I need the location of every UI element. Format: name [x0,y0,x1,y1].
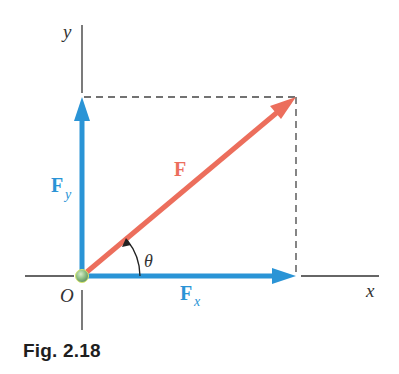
fy-arrowhead [74,97,90,121]
y-axis-label: y [61,21,72,42]
f-label: F [174,158,186,180]
theta-label: θ [144,251,153,271]
vector-fy [74,97,90,276]
angle-theta-arc [122,238,140,276]
force-components-diagram: y x O θ F F y F x [0,0,399,374]
origin-label: O [60,285,74,306]
fx-label: F [180,282,192,304]
figure-caption: Fig. 2.18 [23,340,101,362]
fy-subscript: y [63,187,72,202]
fx-subscript: x [193,294,201,309]
origin-point [76,270,89,283]
vector-f [82,97,296,276]
fy-label: F [51,174,63,196]
fx-arrowhead [272,268,296,284]
x-axis-label: x [365,280,375,301]
